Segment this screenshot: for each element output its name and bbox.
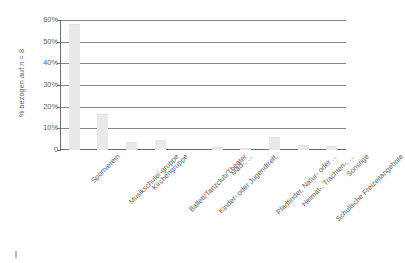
- bar-slot: [317, 20, 346, 150]
- bar[interactable]: [298, 145, 309, 150]
- y-axis-tick-label: 50%: [28, 38, 58, 46]
- bar[interactable]: [269, 137, 280, 150]
- bar[interactable]: [155, 140, 166, 150]
- bar[interactable]: [326, 146, 337, 150]
- bar-slot: [203, 20, 232, 150]
- plot-area: [60, 20, 346, 150]
- y-axis-tick-labels: 60%50%40%30%20%10%0: [28, 14, 58, 156]
- stray-mark: [15, 251, 17, 258]
- y-axis-tick-label: 20%: [28, 103, 58, 111]
- y-axis-tick-label: 30%: [28, 81, 58, 89]
- bar[interactable]: [240, 148, 251, 150]
- y-axis-tick-label: 60%: [28, 16, 58, 24]
- bar[interactable]: [212, 147, 223, 150]
- bar-slot: [146, 20, 175, 150]
- bar-slot: [260, 20, 289, 150]
- y-axis-tick-label: 10%: [28, 124, 58, 132]
- bar-slot: [117, 20, 146, 150]
- y-axis-title: % bezogen auf n = 8: [14, 18, 28, 148]
- y-axis-tick-label: 0: [28, 146, 58, 154]
- bar-slot: [174, 20, 203, 150]
- bar[interactable]: [97, 114, 108, 150]
- y-axis-title-text: % bezogen auf n = 8: [17, 49, 26, 117]
- y-axis-tick-label: 40%: [28, 59, 58, 67]
- bar-slot: [89, 20, 118, 150]
- x-axis-tick-labels: SportvereinMusikschule/-gruppeKirchengru…: [60, 152, 346, 232]
- x-axis-tick-label-text: Musikschule/-gruppe: [127, 152, 181, 206]
- bar-slot: [60, 20, 89, 150]
- x-axis-tick-label-text: Sportverein: [89, 152, 122, 185]
- bar-slot: [232, 20, 261, 150]
- bar[interactable]: [69, 24, 80, 150]
- bar-slot: [289, 20, 318, 150]
- bars-layer: [60, 20, 346, 150]
- bar[interactable]: [126, 142, 137, 150]
